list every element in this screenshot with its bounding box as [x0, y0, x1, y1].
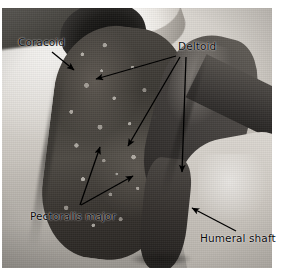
figure-page: Coracoid Deltoid Pectoralis major Humera… — [0, 0, 286, 279]
arrow-deltoid-2 — [128, 57, 180, 146]
label-humeral-shaft: Humeral shaft — [200, 232, 276, 244]
arrow-coracoid-1 — [52, 52, 74, 70]
leader-arrows — [52, 52, 236, 231]
arrow-deltoid-3 — [182, 57, 186, 172]
label-pectoralis-major: Pectoralis major — [30, 210, 116, 222]
arrow-humeral-shaft-1 — [192, 208, 236, 231]
label-coracoid: Coracoid — [18, 36, 65, 48]
arrow-deltoid-1 — [96, 56, 176, 79]
label-deltoid: Deltoid — [178, 40, 216, 52]
